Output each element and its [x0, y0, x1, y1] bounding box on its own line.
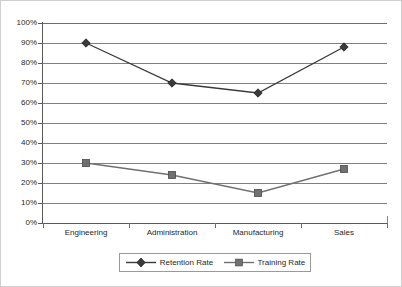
- y-axis-line: [42, 22, 43, 224]
- y-axis-tick-label: 80%: [3, 59, 37, 67]
- y-axis-tick-label: 70%: [3, 79, 37, 87]
- y-axis-tick-label: 30%: [3, 159, 37, 167]
- legend-item-retention-rate[interactable]: Retention Rate: [125, 257, 213, 268]
- chart-legend: Retention Rate Training Rate: [119, 253, 311, 272]
- gridline: [43, 163, 387, 164]
- x-axis-tick-mark: [43, 223, 44, 228]
- gridline: [43, 123, 387, 124]
- gridline: [43, 23, 387, 24]
- plot-area: [43, 23, 387, 223]
- y-axis-tick-label: 10%: [3, 199, 37, 207]
- x-axis-tick-mark: [387, 223, 388, 228]
- y-axis-tick-label: 90%: [3, 39, 37, 47]
- y-axis-tick-label: 50%: [3, 119, 37, 127]
- x-axis-tick-mark: [301, 223, 302, 228]
- x-axis-tick-label: Engineering: [43, 228, 129, 238]
- y-axis-tick-label: 40%: [3, 139, 37, 147]
- square-marker-icon: [223, 257, 255, 268]
- legend-label-training-rate: Training Rate: [258, 258, 306, 267]
- y-axis-tick-label: 0%: [3, 219, 37, 227]
- chart-container: 0%10%20%30%40%50%60%70%80%90%100% Engine…: [0, 0, 402, 287]
- legend-label-retention-rate: Retention Rate: [160, 258, 213, 267]
- x-axis-tick-label: Manufacturing: [215, 228, 301, 238]
- gridline: [43, 143, 387, 144]
- x-axis-tick-label: Sales: [301, 228, 387, 238]
- y-axis-tick-label: 100%: [3, 19, 37, 27]
- gridline: [43, 63, 387, 64]
- diamond-marker-icon: [125, 257, 157, 268]
- gridline: [43, 83, 387, 84]
- gridline: [43, 203, 387, 204]
- gridline: [43, 43, 387, 44]
- y-axis-tick-label: 60%: [3, 99, 37, 107]
- gridline: [43, 183, 387, 184]
- y-axis-tick-label: 20%: [3, 179, 37, 187]
- x-axis-tick-mark: [129, 223, 130, 228]
- x-axis-tick-label: Administration: [129, 228, 215, 238]
- x-axis-tick-mark: [215, 223, 216, 228]
- legend-item-training-rate[interactable]: Training Rate: [223, 257, 306, 268]
- gridline: [43, 103, 387, 104]
